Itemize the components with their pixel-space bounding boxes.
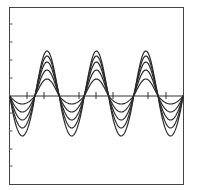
waveform-chart [0,0,201,190]
